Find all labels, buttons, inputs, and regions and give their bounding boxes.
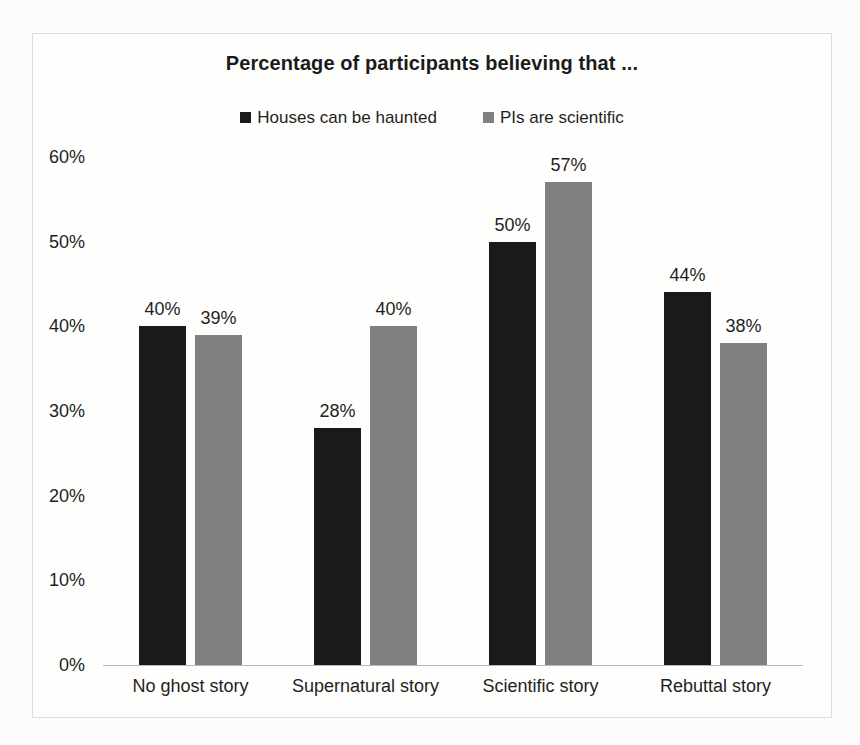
y-axis-tick-0: 0%	[59, 655, 85, 676]
legend-swatch-icon-series-2	[483, 112, 494, 123]
bar-value-label: 44%	[669, 265, 705, 286]
bar-series-1[interactable]	[489, 242, 536, 665]
x-axis-tick-label: Supernatural story	[292, 676, 439, 697]
bar-group: 44%38%	[628, 157, 803, 665]
legend-label-series-1: Houses can be haunted	[257, 108, 437, 128]
y-axis-tick-40: 40%	[49, 316, 85, 337]
bar-series-1[interactable]	[664, 292, 711, 665]
bar-series-1[interactable]	[314, 428, 361, 665]
bar-value-label: 40%	[144, 299, 180, 320]
y-axis-tick-50: 50%	[49, 231, 85, 252]
bar-value-label: 40%	[375, 299, 411, 320]
bar-series-2[interactable]	[195, 335, 242, 665]
legend-label-series-2: PIs are scientific	[500, 108, 624, 128]
legend-swatch-icon-series-1	[240, 112, 251, 123]
plot-area: 40%39%28%40%50%57%44%38%	[103, 157, 803, 665]
bar-group: 28%40%	[278, 157, 453, 665]
bar-group: 50%57%	[453, 157, 628, 665]
bar-value-label: 28%	[319, 401, 355, 422]
x-axis-tick-labels: No ghost storySupernatural storyScientif…	[103, 676, 803, 706]
x-axis-baseline	[103, 665, 803, 666]
x-axis-tick-label: Rebuttal story	[660, 676, 771, 697]
legend-item-pis-are-scientific[interactable]: PIs are scientific	[483, 108, 624, 128]
y-axis-tick-labels: 60%50%40%30%20%10%0%	[32, 157, 94, 665]
bar-series-2[interactable]	[370, 326, 417, 665]
chart-title: Percentage of participants believing tha…	[32, 52, 832, 75]
bar-value-label: 38%	[725, 316, 761, 337]
chart-legend: Houses can be haunted PIs are scientific	[32, 108, 832, 128]
x-axis-tick-label: Scientific story	[482, 676, 598, 697]
bar-value-label: 50%	[494, 215, 530, 236]
bar-group: 40%39%	[103, 157, 278, 665]
bar-series-2[interactable]	[545, 182, 592, 665]
bar-series-1[interactable]	[139, 326, 186, 665]
y-axis-tick-10: 10%	[49, 570, 85, 591]
legend-item-houses-can-be-haunted[interactable]: Houses can be haunted	[240, 108, 437, 128]
x-axis-tick-label: No ghost story	[132, 676, 248, 697]
y-axis-tick-20: 20%	[49, 485, 85, 506]
bar-value-label: 57%	[550, 155, 586, 176]
bar-series-2[interactable]	[720, 343, 767, 665]
y-axis-tick-60: 60%	[49, 147, 85, 168]
y-axis-tick-30: 30%	[49, 401, 85, 422]
bar-value-label: 39%	[200, 308, 236, 329]
